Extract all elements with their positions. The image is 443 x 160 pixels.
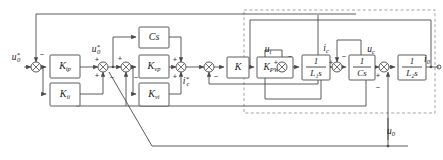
sign-sum5-minus: − [214,72,219,81]
signal-label-u0-ref-input: u*0 [12,50,21,63]
summing-junction-sum8[interactable] [379,62,389,72]
block-label-l2s-denominator: L₂s [405,68,418,78]
diagram-canvas: Kip Kii Cs Kvp Kvi K KPWM 1 L₁s 1 Cs [0,0,443,160]
sign-sum2-plus-top: + [95,55,100,64]
signal-label-u0-feedback: u0 [387,126,396,137]
summing-junction-sum2[interactable] [98,62,108,72]
sign-sum4-plus-bottom: + [173,72,178,81]
sign-sum4-plus-top: + [173,55,178,64]
sign-sum3-plus: + [118,54,123,63]
signal-label-ic-ref: i*c [183,74,190,87]
summing-junction-sum1[interactable] [31,62,41,72]
block-label-cs: Cs [149,31,160,42]
sign-sum7-minus: − [342,52,347,61]
block-label-l1s-denominator: L₁s [309,68,322,78]
sign-sum1-minus: − [40,50,45,59]
summing-junction-sum3[interactable] [121,62,131,72]
block-label-cs2-denominator: Cs [357,68,367,78]
sign-sum2-minus: − [110,73,115,82]
block-label-l1s-numerator: 1 [314,56,319,66]
signal-label-u0-ref-mid: u*0 [92,42,101,55]
block-label-cs2-numerator: 1 [360,56,365,66]
sign-sum3-minus: − [134,73,139,82]
signal-label-ic: ic [323,43,329,54]
summing-junction-sum4[interactable] [176,62,186,72]
summing-junction-sum5[interactable] [204,62,214,72]
summing-junction-sum7[interactable] [332,62,342,72]
sign-sum8-plus: + [376,71,381,80]
signal-label-i0-output: i0 [424,54,431,65]
block-label-k: K [234,61,243,72]
sign-sum8-minus: − [376,83,381,92]
sign-sum7-plus: + [329,58,334,67]
summing-junction-sum6[interactable] [277,62,287,72]
control-block-diagram: Kip Kii Cs Kvp Kvi K KPWM 1 L₁s 1 Cs [0,0,443,160]
signal-label-uc: uc [367,44,375,55]
block-label-l2s-numerator: 1 [410,56,415,66]
signal-label-ui: ui [265,44,272,55]
sign-sum2-plus-bottom: + [95,71,100,80]
sign-sum6-minus: − [288,52,293,61]
sign-sum6-plus: + [274,58,279,67]
